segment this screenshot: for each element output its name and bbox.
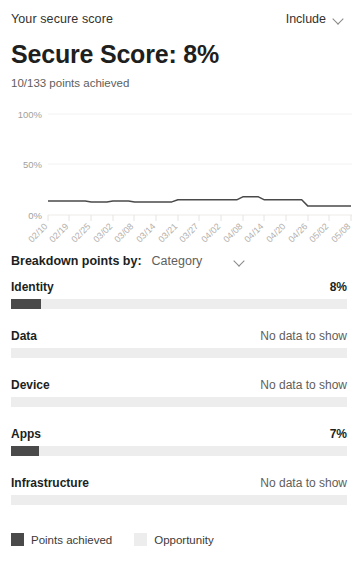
y-tick-50: 50%: [23, 159, 43, 170]
trend-line-series: [48, 197, 351, 206]
breakdown-row-name: Infrastructure: [11, 476, 89, 490]
chevron-down-icon[interactable]: [234, 255, 246, 267]
breakdown-row-name: Identity: [11, 280, 54, 294]
x-tick-4: 03/08: [112, 221, 135, 244]
chart-gridlines: [48, 114, 352, 164]
legend-label-achieved: Points achieved: [31, 534, 112, 546]
panel-title: Your secure score: [11, 12, 113, 26]
breakdown-row-header: InfrastructureNo data to show: [11, 476, 347, 490]
breakdown-row-value: No data to show: [260, 329, 347, 343]
x-tick-7: 03/27: [177, 221, 200, 244]
breakdown-row-name: Device: [11, 378, 50, 392]
breakdown-row-value: No data to show: [260, 378, 347, 392]
chart-legend: Points achieved Opportunity: [0, 525, 358, 546]
x-tick-5: 03/14: [134, 221, 157, 244]
legend-label-opportunity: Opportunity: [154, 534, 213, 546]
breakdown-progress-track: [11, 446, 347, 456]
breakdown-row-value: 7%: [330, 427, 347, 441]
secure-score-panel: Your secure score Include Secure Score: …: [0, 0, 358, 573]
breakdown-row-header: DataNo data to show: [11, 329, 347, 343]
x-tick-14: 05/08: [329, 221, 352, 244]
breakdown-progress-track: [11, 495, 347, 505]
legend-item-opportunity: Opportunity: [134, 533, 213, 546]
chart-x-tick-labels: 02/10 02/19 02/25 03/02 03/08 03/14 03/2…: [26, 221, 352, 244]
x-tick-9: 04/08: [221, 221, 244, 244]
points-achieved-text: 10/133 points achieved: [0, 68, 358, 89]
secure-score-trend-chart: 100% 50% 0% 02/10 02/19 02/25 03/02 03/0…: [0, 97, 358, 252]
breakdown-header: Breakdown points by: Category: [0, 252, 358, 268]
breakdown-category-dropdown[interactable]: Category: [152, 254, 203, 268]
x-tick-10: 04/14: [242, 221, 265, 244]
chart-axis: [48, 215, 352, 221]
chevron-down-icon: [333, 13, 345, 25]
secure-score-heading: Secure Score: 8%: [0, 30, 358, 68]
include-dropdown-label: Include: [286, 12, 326, 26]
x-tick-8: 04/02: [199, 221, 222, 244]
x-tick-13: 05/02: [307, 221, 330, 244]
breakdown-progress-fill: [11, 446, 39, 456]
breakdown-row-value: 8%: [330, 280, 347, 294]
breakdown-progress-track: [11, 397, 347, 407]
breakdown-row: InfrastructureNo data to show: [11, 476, 347, 505]
breakdown-row: DeviceNo data to show: [11, 378, 347, 407]
breakdown-row-value: No data to show: [260, 476, 347, 490]
include-dropdown[interactable]: Include: [286, 12, 347, 26]
legend-swatch-opportunity: [134, 533, 147, 546]
breakdown-progress-track: [11, 299, 347, 309]
breakdown-progress-track: [11, 348, 347, 358]
x-tick-3: 03/02: [91, 221, 114, 244]
x-tick-12: 04/26: [286, 221, 309, 244]
breakdown-row-name: Data: [11, 329, 37, 343]
y-tick-0: 0%: [28, 210, 42, 221]
breakdown-row-header: Apps7%: [11, 427, 347, 441]
x-tick-6: 03/21: [156, 221, 179, 244]
breakdown-row: Apps7%: [11, 427, 347, 456]
legend-swatch-achieved: [11, 533, 24, 546]
breakdown-row-name: Apps: [11, 427, 41, 441]
legend-item-points-achieved: Points achieved: [11, 533, 112, 546]
trend-chart-svg: 100% 50% 0% 02/10 02/19 02/25 03/02 03/0…: [0, 97, 358, 252]
panel-header: Your secure score Include: [0, 0, 358, 30]
breakdown-row: DataNo data to show: [11, 329, 347, 358]
breakdown-row-header: Identity8%: [11, 280, 347, 294]
chart-y-tick-labels: 100% 50% 0%: [18, 109, 43, 221]
breakdown-rows: Identity8%DataNo data to showDeviceNo da…: [0, 280, 358, 505]
x-tick-0: 02/10: [26, 221, 49, 244]
x-tick-2: 02/25: [69, 221, 92, 244]
breakdown-row: Identity8%: [11, 280, 347, 309]
x-tick-1: 02/19: [47, 221, 70, 244]
x-tick-11: 04/20: [264, 221, 287, 244]
breakdown-label: Breakdown points by:: [11, 254, 142, 268]
breakdown-progress-fill: [11, 299, 41, 309]
breakdown-row-header: DeviceNo data to show: [11, 378, 347, 392]
y-tick-100: 100%: [18, 109, 43, 120]
